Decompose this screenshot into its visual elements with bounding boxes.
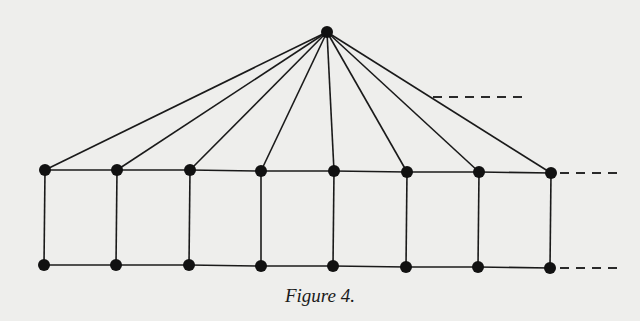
top-vertex — [111, 164, 123, 176]
top-vertex — [39, 164, 51, 176]
rung-edge — [116, 170, 117, 265]
rung-edge — [550, 173, 551, 268]
top-rail-edge — [479, 172, 551, 173]
spoke-edge — [327, 32, 551, 173]
bottom-vertex — [183, 259, 195, 271]
top-vertex — [401, 166, 413, 178]
ladder-rails — [44, 170, 551, 268]
top-rail-edge — [334, 171, 407, 172]
bottom-vertex — [544, 262, 556, 274]
bottom-vertex — [110, 259, 122, 271]
top-rail-edge — [190, 170, 261, 171]
continuation-dashes — [433, 97, 618, 268]
rung-edge — [478, 172, 479, 267]
bottom-vertex — [472, 261, 484, 273]
rung-edge — [406, 172, 407, 267]
ladder-rungs — [44, 170, 551, 268]
bottom-vertex — [255, 260, 267, 272]
spoke-edge — [117, 32, 327, 170]
graph-diagram — [0, 0, 640, 321]
bottom-rail-edge — [478, 267, 550, 268]
apex-vertex — [321, 26, 333, 38]
bottom-rail-edge — [333, 266, 406, 267]
bottom-vertex — [38, 259, 50, 271]
top-vertex — [545, 167, 557, 179]
apex-spokes — [45, 32, 551, 173]
bottom-rail-edge — [189, 265, 261, 266]
spoke-edge — [190, 32, 327, 170]
figure-caption: Figure 4. — [0, 285, 640, 307]
spoke-edge — [327, 32, 479, 172]
top-vertex — [184, 164, 196, 176]
bottom-vertex — [400, 261, 412, 273]
spoke-edge — [327, 32, 334, 171]
top-vertex — [473, 166, 485, 178]
spoke-edge — [45, 32, 327, 170]
rung-edge — [44, 170, 45, 265]
spoke-edge — [327, 32, 407, 172]
rung-edge — [333, 171, 334, 266]
bottom-vertex — [327, 260, 339, 272]
top-vertex — [255, 165, 267, 177]
rung-edge — [189, 170, 190, 265]
top-vertex — [328, 165, 340, 177]
